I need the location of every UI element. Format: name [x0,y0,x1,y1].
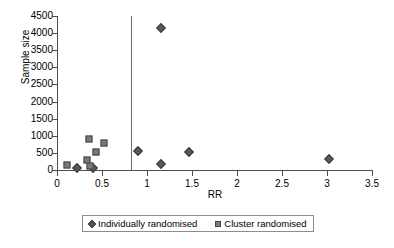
y-tick [52,50,57,51]
data-point [92,148,99,155]
y-tick-label: 4500 [31,11,53,21]
x-tick-label: 1.5 [185,178,199,189]
data-point [87,162,94,169]
data-point [100,140,107,147]
x-tick-label: 3.5 [365,178,379,189]
data-point [85,136,92,143]
y-tick [52,33,57,34]
legend-label: Cluster randomised [224,218,306,229]
chart-legend: Individually randomised Cluster randomis… [82,215,314,232]
scatter-plot-figure: Sample size 0500100015002000250030003500… [0,0,394,248]
y-tick-label: 3000 [31,62,53,72]
x-tick [282,171,283,176]
plot-area [57,16,372,170]
y-tick [52,84,57,85]
legend-item-cluster-randomised: Cluster randomised [215,218,306,229]
y-tick [52,153,57,154]
y-tick-label: 2000 [31,97,53,107]
data-point [184,147,194,157]
y-tick-label: 2500 [31,79,53,89]
x-tick-label: 3 [324,178,330,189]
square-marker-icon [215,221,221,227]
y-tick [52,16,57,17]
y-tick-label: 500 [36,148,53,158]
x-tick [327,171,328,176]
x-tick [102,171,103,176]
y-tick [52,102,57,103]
x-tick-label: 0.5 [95,178,109,189]
x-tick-label: 2.5 [275,178,289,189]
x-tick [147,171,148,176]
legend-label: Individually randomised [98,218,197,229]
y-axis-tick-labels: 050010001500200025003000350040004500 [0,0,53,248]
y-tick-label: 3500 [31,45,53,55]
y-tick-label: 1000 [31,131,53,141]
data-point [324,154,334,164]
y-tick [52,67,57,68]
y-tick [52,119,57,120]
x-axis-title: RR [57,189,373,200]
x-tick-label: 0 [54,178,60,189]
data-point [156,159,166,169]
x-tick [372,171,373,176]
reference-line-vertical [131,16,132,170]
data-point [133,146,143,156]
y-tick [52,170,57,171]
y-tick-label: 4000 [31,28,53,38]
diamond-marker-icon [88,219,96,227]
x-tick [57,171,58,176]
x-tick [237,171,238,176]
data-point [63,161,70,168]
x-tick-label: 2 [234,178,240,189]
y-tick-label: 1500 [31,114,53,124]
legend-item-individually-randomised: Individually randomised [89,218,197,229]
y-tick [52,136,57,137]
x-tick-label: 1 [144,178,150,189]
x-tick [192,171,193,176]
data-point [156,23,166,33]
